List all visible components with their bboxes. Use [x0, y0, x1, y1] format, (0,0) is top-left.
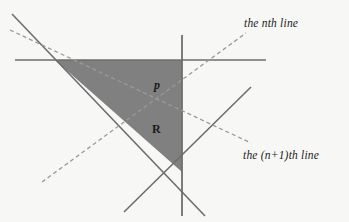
diagram-canvas: the nth line the (n+1)th line p R: [0, 0, 349, 222]
point-p-label: p: [154, 79, 160, 91]
region-r-label: R: [152, 123, 161, 135]
n-plus-1th-line-label: the (n+1)th line: [243, 150, 319, 162]
nth-line-label: the nth line: [244, 18, 298, 30]
line-arrangement-svg: [0, 0, 349, 222]
